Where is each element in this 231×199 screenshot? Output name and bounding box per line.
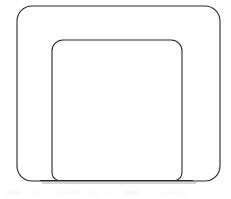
line-drawing-svg [0, 0, 231, 199]
inner-body-group [52, 40, 182, 181]
figure-canvas: ihna wdsl iln ilnaiii nal iln lilihn al … [0, 0, 231, 199]
inner-rounded-rectangle [52, 40, 182, 181]
